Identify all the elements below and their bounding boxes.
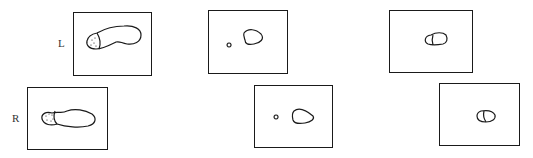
footprint-drawings [0, 0, 533, 158]
footprint-icon-left-1 [87, 26, 141, 49]
footprint-icon-right-3 [477, 111, 495, 122]
footprint-icon-right-1 [42, 110, 95, 127]
footprint-icon-left-2 [227, 30, 262, 47]
footprint-icon-right-2 [274, 109, 313, 123]
footprint-icon-left-3 [425, 33, 447, 45]
